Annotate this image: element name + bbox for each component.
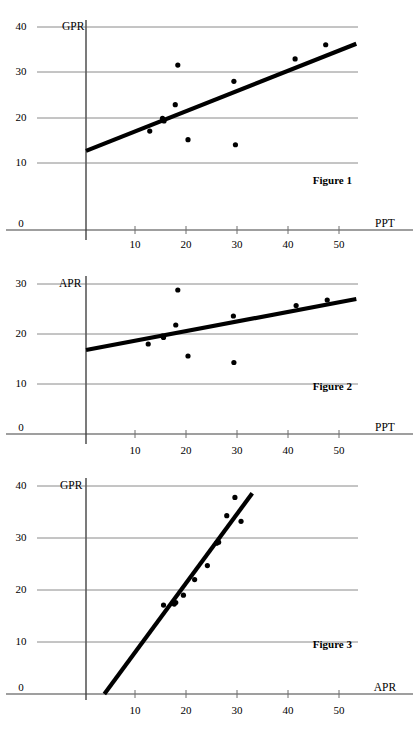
figure-2-ytick-label-10: 10 [16, 377, 28, 389]
regression-line [86, 299, 356, 350]
data-point [232, 495, 237, 500]
data-point [325, 297, 330, 302]
data-point [205, 563, 210, 568]
data-point [175, 62, 180, 67]
data-point [293, 56, 298, 61]
data-point [173, 322, 178, 327]
figure-2-x-axis-label: PPT [375, 421, 395, 433]
figure-3-ytick-label-40: 40 [16, 479, 28, 491]
figure-2-gridlines [37, 284, 358, 384]
figure-3-ytick-label-20: 20 [16, 583, 28, 595]
figure-3-x-axis-label: APR [374, 681, 397, 693]
data-point [294, 303, 299, 308]
data-point [192, 577, 197, 582]
figure-1-xtick-label-20: 20 [181, 238, 193, 250]
figure-2-y-axis-label: APR [59, 277, 82, 289]
figure-3-xtick-label-10: 10 [130, 704, 142, 716]
regression-line [104, 493, 252, 694]
figure-1-fit-line [86, 44, 356, 151]
figure-2-xtick-label-40: 40 [283, 444, 295, 456]
figure-1-points [147, 42, 328, 147]
figure-3-gridlines [37, 486, 358, 642]
figure-1-ytick-label-30: 30 [16, 65, 28, 77]
figure-1-x-axis-label: PPT [375, 217, 395, 229]
figure-2-caption: Figure 2 [313, 380, 353, 392]
data-point [173, 102, 178, 107]
data-point [231, 360, 236, 365]
data-point [185, 353, 190, 358]
figure-1-caption: Figure 1 [313, 174, 352, 186]
figure-1-xtick-label-40: 40 [283, 238, 295, 250]
figure-3-xtick-label-40: 40 [283, 704, 295, 716]
data-point [175, 287, 180, 292]
figure-3-y-axis-label: GPR [60, 479, 83, 491]
figure-1-xtick-label-30: 30 [232, 238, 244, 250]
data-point [323, 42, 328, 47]
figure-3-caption: Figure 3 [313, 638, 353, 650]
figure-1-ytick-label-10: 10 [16, 156, 28, 168]
data-point [185, 137, 190, 142]
figure-2-ytick-label-0: 0 [18, 421, 24, 433]
figure-2-fit-line [86, 299, 356, 350]
data-point [161, 118, 166, 123]
data-point [161, 335, 166, 340]
figure-3-ytick-label-10: 10 [16, 635, 28, 647]
figure-3-xtick-label-20: 20 [181, 704, 193, 716]
data-point [224, 513, 229, 518]
figure-1-panel: 40 30 20 10 0 10 20 30 40 50 GPR PPT Fig… [0, 0, 419, 252]
data-point [231, 79, 236, 84]
figure-3-ytick-label-0: 0 [18, 681, 24, 693]
figure-2-panel: 30 20 10 0 10 20 30 40 50 APR PPT Figure… [0, 252, 419, 460]
figure-1-xtick-label-50: 50 [334, 238, 346, 250]
figure-1-ytick-label-0: 0 [18, 217, 24, 229]
figure-2-xtick-label-30: 30 [232, 444, 244, 456]
data-point [181, 593, 186, 598]
figure-3-fit-line [104, 493, 252, 694]
figure-1-ytick-label-40: 40 [16, 20, 28, 32]
figure-2-chart: 30 20 10 0 10 20 30 40 50 APR PPT Figure… [0, 252, 419, 460]
data-point [161, 602, 166, 607]
figure-2-xtick-label-50: 50 [334, 444, 346, 456]
figure-1-chart: 40 30 20 10 0 10 20 30 40 50 GPR PPT Fig… [0, 0, 419, 252]
regression-line [86, 44, 356, 151]
figure-2-points [146, 287, 330, 365]
figure-1-xtick-label-10: 10 [130, 238, 142, 250]
figure-2-ytick-label-30: 30 [16, 277, 28, 289]
figure-3-points [161, 495, 244, 608]
data-point [216, 540, 221, 545]
data-point [146, 341, 151, 346]
figure-3-xtick-label-30: 30 [232, 704, 244, 716]
figure-1-gridlines [37, 27, 358, 163]
data-point [238, 519, 243, 524]
figure-3-ytick-label-30: 30 [16, 531, 28, 543]
data-point [233, 142, 238, 147]
data-point [231, 313, 236, 318]
data-point [173, 600, 178, 605]
figure-3-chart: 40 30 20 10 0 10 20 30 40 50 GPR APR Fig… [0, 460, 419, 732]
figure-2-xtick-label-20: 20 [181, 444, 193, 456]
figure-2-xtick-label-10: 10 [130, 444, 142, 456]
figure-3-xtick-label-50: 50 [334, 704, 346, 716]
data-point [147, 128, 152, 133]
figure-2-ytick-label-20: 20 [16, 327, 28, 339]
figure-1-ytick-label-20: 20 [16, 111, 28, 123]
figure-1-y-axis-label: GPR [62, 20, 85, 32]
figure-3-panel: 40 30 20 10 0 10 20 30 40 50 GPR APR Fig… [0, 460, 419, 732]
